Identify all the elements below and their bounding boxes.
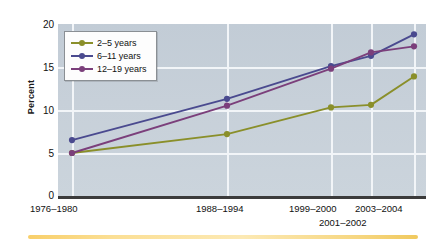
y-tick-label-15: 15 bbox=[28, 62, 54, 73]
legend-marker-12-19-years bbox=[71, 63, 93, 74]
x-tick-label-1999-2000: 1999–2000 bbox=[289, 203, 337, 214]
data-point bbox=[224, 96, 230, 102]
series-line-0 bbox=[72, 76, 414, 153]
bottom-accent-rule bbox=[28, 235, 418, 239]
x-tick-label-1988-1994: 1988–1994 bbox=[196, 203, 244, 214]
data-point bbox=[411, 43, 417, 49]
data-point bbox=[328, 66, 334, 72]
legend-item-12-19-years[interactable]: 12–19 years bbox=[71, 62, 147, 75]
data-point bbox=[69, 137, 75, 143]
data-point bbox=[328, 104, 334, 110]
legend-label-2-5-years: 2–5 years bbox=[93, 38, 137, 48]
y-tick-label-0: 0 bbox=[28, 190, 54, 201]
legend-item-2-5-years[interactable]: 2–5 years bbox=[71, 36, 147, 49]
data-point bbox=[368, 102, 374, 108]
data-point bbox=[224, 131, 230, 137]
legend-marker-6-11-years bbox=[71, 50, 93, 61]
chart-figure: Percent 20 15 10 5 0 2–5 years 6–11 year… bbox=[0, 0, 436, 242]
x-tick-label-2003-2004: 2003–2004 bbox=[355, 203, 403, 214]
data-point bbox=[224, 103, 230, 109]
x-tick-label-1976-1980: 1976–1980 bbox=[30, 203, 78, 214]
y-tick-label-5: 5 bbox=[28, 148, 54, 159]
data-point bbox=[368, 49, 374, 55]
legend-label-6-11-years: 6–11 years bbox=[93, 51, 141, 61]
legend-label-12-19-years: 12–19 years bbox=[93, 64, 147, 74]
legend: 2–5 years 6–11 years 12–19 years bbox=[64, 31, 157, 81]
data-point bbox=[69, 150, 75, 156]
legend-marker-2-5-years bbox=[71, 37, 93, 48]
data-point bbox=[411, 31, 417, 37]
data-point bbox=[411, 73, 417, 79]
y-tick-label-20: 20 bbox=[28, 19, 54, 30]
x-tick-label-2001-2002: 2001–2002 bbox=[319, 217, 367, 228]
y-tick-label-10: 10 bbox=[28, 105, 54, 116]
legend-item-6-11-years[interactable]: 6–11 years bbox=[71, 49, 147, 62]
